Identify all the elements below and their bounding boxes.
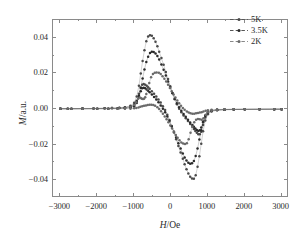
series-5K-descending-line [60, 35, 281, 134]
x-tick-minor [152, 195, 153, 197]
x-axis-title-unit: /Oe [167, 220, 181, 230]
series-5K-ascending-line [60, 84, 281, 179]
x-tick-major [170, 193, 171, 197]
y-tick-major-right [284, 72, 288, 73]
y-tick-major [52, 108, 56, 109]
x-tick-major [96, 193, 97, 197]
x-tick-label: 0 [168, 201, 172, 211]
x-tick-major [133, 193, 134, 197]
x-tick-minor-top [115, 19, 116, 21]
chart-svg [53, 20, 289, 198]
y-axis-title-unit: /a.u. [18, 101, 28, 117]
chart-legend: 5K3.5K2K [229, 14, 287, 46]
x-axis-title: H/Oe [52, 220, 288, 230]
y-tick-minor [52, 90, 54, 91]
x-tick-major [59, 193, 60, 197]
series-2K-descending-markers [59, 71, 283, 115]
x-tick-minor [188, 195, 189, 197]
x-tick-minor-top [188, 19, 189, 21]
y-axis-title: M/a.u. [18, 83, 28, 143]
y-tick-minor-right [286, 90, 288, 91]
x-tick-major [281, 193, 282, 197]
y-tick-major-right [284, 144, 288, 145]
y-tick-major [52, 37, 56, 38]
y-tick-label: −0.04 [2, 174, 48, 184]
y-tick-label: 0.02 [2, 67, 48, 77]
x-tick-label: 3000 [272, 201, 289, 211]
x-tick-label: −1000 [122, 201, 143, 211]
x-tick-major-top [133, 19, 134, 23]
x-tick-label: 1000 [199, 201, 216, 211]
x-tick-minor-top [78, 19, 79, 21]
y-tick-label: 0.04 [2, 32, 48, 42]
x-tick-minor [225, 195, 226, 197]
y-tick-major [52, 144, 56, 145]
x-tick-major-top [207, 19, 208, 23]
y-tick-minor-right [286, 126, 288, 127]
legend-label-5K: 5K [249, 15, 261, 24]
x-tick-label: −3000 [49, 201, 70, 211]
legend-symbol-3-5K [229, 26, 249, 35]
y-tick-major-right [284, 179, 288, 180]
legend-symbol-2K [229, 37, 249, 46]
x-tick-minor [262, 195, 263, 197]
legend-item-3-5K[interactable]: 3.5K [229, 25, 287, 35]
y-tick-minor-right [286, 55, 288, 56]
x-tick-minor-top [225, 19, 226, 21]
x-tick-minor-top [152, 19, 153, 21]
x-tick-minor [115, 195, 116, 197]
x-tick-major-top [96, 19, 97, 23]
y-tick-major [52, 72, 56, 73]
y-tick-minor [52, 161, 54, 162]
x-tick-major [207, 193, 208, 197]
x-tick-label: 2000 [235, 201, 252, 211]
figure-canvas: −3000−2000−100001000200030000.040.020.00… [0, 0, 308, 244]
legend-item-2K[interactable]: 2K [229, 36, 287, 46]
legend-item-5K[interactable]: 5K [229, 14, 287, 24]
series-5K-ascending-markers [59, 83, 283, 180]
legend-label-2K: 2K [249, 37, 261, 46]
legend-label-3-5K: 3.5K [249, 26, 268, 35]
y-tick-major [52, 179, 56, 180]
series-5K-descending-markers [59, 34, 283, 136]
y-tick-minor-right [286, 161, 288, 162]
x-tick-major [244, 193, 245, 197]
y-tick-minor [52, 55, 54, 56]
y-tick-major-right [284, 108, 288, 109]
x-tick-major-top [59, 19, 60, 23]
x-axis-title-symbol: H [160, 220, 167, 230]
y-tick-minor [52, 126, 54, 127]
x-tick-label: −2000 [86, 201, 107, 211]
y-axis-title-symbol: M [18, 117, 28, 125]
x-tick-minor [78, 195, 79, 197]
legend-symbol-5K [229, 15, 249, 24]
x-tick-major-top [170, 19, 171, 23]
